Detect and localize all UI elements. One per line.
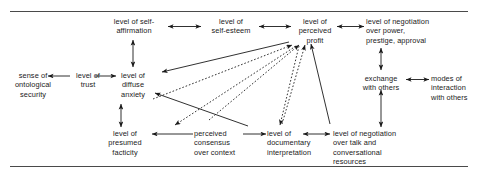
node-self-esteem: level of self-esteem — [203, 17, 259, 36]
node-trust: level of trust — [70, 71, 106, 90]
node-diffuse-anxiety: level of diffuse anxiety — [111, 71, 155, 99]
node-perceived-profit: level of perceived profit — [293, 17, 337, 45]
node-exchange-with-others: exchange with others — [355, 74, 407, 93]
edge-profit-dotted-to-documentary — [280, 46, 299, 125]
edge-profit-down-to-anxiety-upper — [162, 42, 289, 72]
edge-profit-dotted-to-presumed-facticity — [175, 46, 296, 125]
node-modes-of-interaction: modes of interaction with others — [431, 74, 479, 102]
node-self-affirmation: level of self- affirmation — [100, 17, 168, 36]
edge-negotiation-talk-to-perceived-profit — [311, 44, 330, 124]
edge-perceived-consensus-to-perceived-profit — [209, 45, 299, 120]
edge-negotiation-talk-to-diffuse-anxiety — [155, 93, 248, 126]
node-documentary-interpretation: level of documentary interpretation — [267, 129, 329, 157]
diagram-figure: level of self- affirmation level of self… — [0, 0, 480, 186]
node-negotiation-power: level of negotiation over power, prestig… — [366, 17, 470, 45]
edge-documentary-to-perceived-profit — [282, 45, 305, 124]
node-ontological-security: sense of ontological security — [10, 71, 56, 99]
edge-presumed-facticity-to-perceived-profit — [153, 45, 292, 99]
node-presumed-facticity: level of presumed facticity — [100, 129, 150, 157]
top-rule — [10, 11, 468, 12]
node-negotiation-talk: level of negotiation over talk and conve… — [333, 129, 439, 166]
node-perceived-consensus: perceived consensus over context — [194, 129, 256, 157]
